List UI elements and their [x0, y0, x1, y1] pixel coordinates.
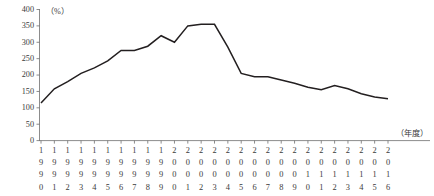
x-axis-title: （年度）	[396, 128, 428, 138]
x-axis-tick-digit: 9	[146, 158, 150, 167]
x-axis-tick-digit: 0	[346, 158, 350, 167]
x-axis-tick-digit: 1	[119, 146, 123, 155]
x-axis-tick-digit: 2	[386, 146, 390, 155]
x-axis-tick-digit: 2	[333, 183, 337, 192]
x-axis-tick-digit: 1	[79, 146, 83, 155]
x-axis-tick-label: 1994	[92, 146, 97, 192]
x-axis-tick-digit: 9	[292, 183, 296, 192]
x-axis-tick-digit: 9	[66, 158, 70, 167]
chart-canvas: 050100150200250300350400 （%） 19901991199…	[0, 0, 434, 196]
x-axis-tick-digit: 9	[66, 170, 70, 179]
x-axis-tick-digit: 0	[292, 158, 296, 167]
x-axis-tick-digit: 0	[252, 170, 256, 179]
x-axis-tick-digit: 2	[66, 183, 70, 192]
data-series-line	[41, 24, 388, 103]
x-axis-tick-digit: 9	[159, 158, 163, 167]
x-axis-tick-digit: 9	[106, 170, 110, 179]
x-axis-tick-marks	[41, 141, 388, 144]
x-axis-tick-label: 2008	[279, 146, 283, 192]
x-axis-tick-label: 2002	[199, 146, 203, 192]
x-axis-tick-digit: 0	[279, 170, 283, 179]
x-axis-tick-label: 1995	[106, 146, 110, 192]
x-axis-tick-label: 2005	[239, 146, 243, 192]
x-axis-tick-digit: 4	[226, 183, 231, 192]
y-axis-tick-label: 400	[22, 5, 34, 14]
x-axis-tick-label: 1991	[52, 146, 56, 192]
y-axis-tick-label: 0	[30, 136, 34, 145]
x-axis-tick-digit: 9	[79, 170, 83, 179]
y-axis-tick-label: 150	[22, 87, 34, 96]
x-axis-tick-digit: 0	[279, 158, 283, 167]
x-axis-tick-digit: 9	[79, 158, 83, 167]
x-axis-tick-digit: 9	[52, 158, 56, 167]
x-axis-tick-digit: 8	[146, 183, 150, 192]
x-axis-tick-digit: 2	[346, 146, 350, 155]
x-axis-tick-digit: 9	[92, 170, 96, 179]
x-axis-tick-digit: 9	[119, 170, 123, 179]
x-axis-tick-digit: 2	[212, 146, 216, 155]
y-axis-group: 050100150200250300350400 （%）	[22, 5, 69, 145]
x-axis-tick-digit: 1	[66, 146, 70, 155]
x-axis-tick-label: 2000	[172, 146, 176, 192]
x-axis-tick-digit: 2	[199, 146, 203, 155]
x-axis-tick-labels: 1990199119921993199419951996199719981999…	[39, 146, 390, 192]
x-axis-tick-digit: 9	[132, 158, 136, 167]
x-axis-tick-digit: 3	[212, 183, 216, 192]
x-axis-tick-label: 1999	[159, 146, 163, 192]
x-axis-tick-digit: 0	[226, 170, 230, 179]
x-axis-tick-label: 2013	[346, 146, 350, 192]
x-axis-tick-label: 1992	[66, 146, 70, 192]
y-axis-tick-label: 50	[26, 120, 34, 129]
x-axis-tick-digit: 2	[319, 146, 323, 155]
x-axis-tick-label: 2010	[306, 146, 310, 192]
x-axis-tick-digit: 1	[106, 146, 110, 155]
x-axis-tick-label: 2014	[359, 146, 364, 192]
x-axis-tick-digit: 6	[119, 183, 123, 192]
x-axis-tick-digit: 3	[346, 183, 350, 192]
x-axis-tick-digit: 6	[252, 183, 256, 192]
x-axis-tick-label: 1990	[39, 146, 43, 192]
x-axis-tick-label: 1997	[132, 146, 136, 192]
x-axis-tick-digit: 9	[159, 183, 163, 192]
y-axis-tick-label: 200	[22, 70, 34, 79]
x-axis-tick-digit: 7	[266, 183, 270, 192]
x-axis-tick-digit: 0	[186, 158, 190, 167]
x-axis-tick-digit: 9	[146, 170, 150, 179]
x-axis-tick-digit: 9	[132, 170, 136, 179]
x-axis-tick-digit: 1	[373, 170, 377, 179]
x-axis-tick-digit: 0	[319, 158, 323, 167]
x-axis-tick-digit: 0	[266, 170, 270, 179]
x-axis-tick-digit: 2	[172, 146, 176, 155]
x-axis-tick-digit: 9	[119, 158, 123, 167]
x-axis-tick-digit: 0	[212, 158, 216, 167]
x-axis-tick-digit: 0	[172, 158, 176, 167]
x-axis-tick-label: 1998	[146, 146, 150, 192]
x-axis-tick-label: 2011	[319, 146, 323, 192]
x-axis-tick-digit: 1	[146, 146, 150, 155]
x-axis-tick-label: 2006	[252, 146, 256, 192]
x-axis-tick-digit: 4	[359, 183, 364, 192]
x-axis-tick-digit: 2	[306, 146, 310, 155]
x-axis-tick-digit: 0	[386, 158, 390, 167]
x-axis-tick-digit: 0	[199, 158, 203, 167]
x-axis-tick-digit: 0	[333, 158, 337, 167]
x-axis-tick-digit: 0	[239, 170, 243, 179]
y-axis-tick-label: 350	[22, 21, 34, 30]
x-axis-tick-digit: 0	[172, 183, 176, 192]
x-axis-tick-label: 1996	[119, 146, 123, 192]
x-axis-tick-digit: 4	[92, 183, 97, 192]
x-axis-tick-digit: 5	[239, 183, 243, 192]
x-axis-tick-label: 1993	[79, 146, 83, 192]
x-axis-tick-label: 2016	[386, 146, 390, 192]
x-axis-tick-digit: 2	[333, 146, 337, 155]
x-axis-tick-digit: 9	[39, 158, 43, 167]
x-axis-tick-digit: 1	[186, 183, 190, 192]
x-axis-tick-digit: 0	[306, 183, 310, 192]
x-axis-tick-label: 2001	[186, 146, 190, 192]
x-axis-tick-digit: 1	[386, 170, 390, 179]
x-axis-tick-label: 2003	[212, 146, 216, 192]
x-axis-tick-digit: 3	[79, 183, 83, 192]
x-axis-tick-digit: 1	[319, 183, 323, 192]
x-axis-group: 1990199119921993199419951996199719981999…	[39, 128, 430, 192]
x-axis-tick-digit: 2	[373, 146, 377, 155]
